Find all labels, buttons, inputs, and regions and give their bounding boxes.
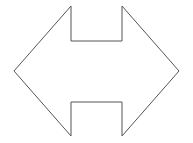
diagram-canvas [0,0,193,143]
double-arrow-shape [14,6,179,136]
